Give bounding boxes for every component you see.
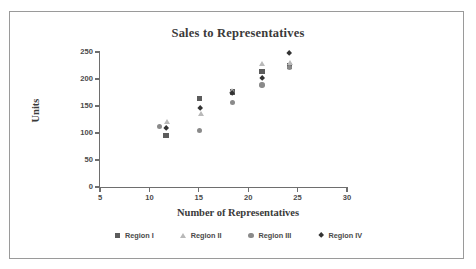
y-tick-value: 0 (65, 182, 93, 191)
y-tick (95, 132, 99, 133)
x-tick (346, 188, 347, 192)
legend-label: Region III (259, 231, 292, 240)
x-tick (248, 188, 249, 192)
scatter-points-layer (100, 52, 347, 187)
triangle-marker-icon (164, 119, 170, 124)
x-tick-label: 5 (85, 193, 115, 202)
x-tick-label: 25 (283, 193, 313, 202)
legend-item-region-i[interactable]: Region I (114, 231, 154, 240)
y-tick-value: 100 (65, 128, 93, 137)
legend-marker (248, 232, 255, 239)
data-point (229, 90, 235, 96)
x-tick (149, 188, 150, 192)
x-axis-line (99, 187, 348, 188)
triangle-marker-icon (198, 111, 204, 116)
y-tick-value: 250 (65, 47, 93, 56)
y-tick-label: 100 (60, 128, 93, 138)
y-tick (95, 186, 99, 187)
y-tick-label: 0 (60, 182, 93, 192)
data-point (230, 100, 235, 105)
legend-item-region-iv[interactable]: Region IV (317, 231, 362, 240)
y-tick (95, 78, 99, 79)
x-tick (99, 188, 100, 192)
data-point (197, 96, 202, 101)
legend-label: Region I (125, 231, 154, 240)
circle-marker-icon (248, 233, 253, 238)
legend-marker (114, 232, 121, 239)
square-marker-icon (163, 133, 168, 138)
x-tick-label: 10 (134, 193, 164, 202)
x-axis-label: Number of Representatives (0, 207, 476, 218)
y-tick-value: 150 (65, 101, 93, 110)
data-point (287, 51, 293, 57)
y-tick-value: 200 (65, 74, 93, 83)
circle-marker-icon (259, 82, 264, 87)
x-tick (198, 188, 199, 192)
data-point (259, 75, 265, 81)
y-tick-value: 50 (65, 155, 93, 164)
triangle-marker-icon (259, 61, 265, 66)
circle-marker-icon (157, 124, 162, 129)
chart-title: Sales to Representatives (0, 26, 476, 41)
y-tick (95, 159, 99, 160)
x-tick-label: 30 (332, 193, 362, 202)
y-tick (95, 51, 99, 52)
square-marker-icon (115, 233, 120, 238)
circle-marker-icon (287, 65, 292, 70)
legend-marker (180, 232, 187, 239)
y-tick-label: 50 (60, 155, 93, 165)
chart-legend: Region IRegion IIRegion IIIRegion IV (0, 231, 476, 240)
data-point (287, 65, 292, 70)
data-point (259, 82, 264, 87)
square-marker-icon (259, 69, 264, 74)
legend-label: Region IV (328, 231, 362, 240)
data-point (259, 61, 265, 66)
y-tick-label: 250 (60, 47, 93, 57)
diamond-marker-icon (163, 126, 169, 132)
diamond-marker-icon (229, 90, 235, 96)
data-point (197, 106, 203, 112)
square-marker-icon (197, 96, 202, 101)
diamond-marker-icon (318, 232, 324, 238)
diamond-marker-icon (259, 75, 265, 81)
legend-label: Region II (191, 231, 222, 240)
data-point (163, 133, 168, 138)
circle-marker-icon (230, 100, 235, 105)
legend-item-region-ii[interactable]: Region II (180, 231, 222, 240)
data-point (197, 128, 202, 133)
y-tick (95, 105, 99, 106)
legend-item-region-iii[interactable]: Region III (248, 231, 292, 240)
diamond-marker-icon (197, 106, 203, 112)
data-point (157, 124, 162, 129)
x-tick-label: 15 (184, 193, 214, 202)
data-point (164, 119, 170, 124)
y-tick-label: 200 (60, 74, 93, 84)
data-point (259, 69, 264, 74)
diamond-marker-icon (287, 51, 293, 57)
data-point (163, 126, 169, 132)
y-tick-label: 150 (60, 101, 93, 111)
triangle-marker-icon (180, 233, 186, 238)
legend-marker (317, 232, 324, 239)
chart-area: Sales to Representatives Units Number of… (0, 0, 476, 269)
x-tick-label: 20 (233, 193, 263, 202)
x-tick (297, 188, 298, 192)
circle-marker-icon (197, 128, 202, 133)
y-axis-label: Units (30, 71, 41, 151)
